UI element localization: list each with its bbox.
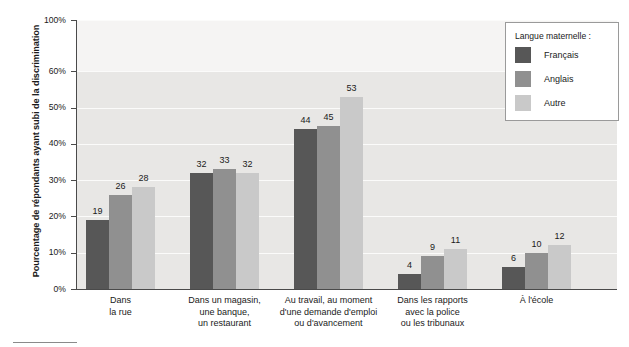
y-axis-tick-label: 60% — [49, 67, 66, 76]
y-axis-tick-label: 10% — [49, 248, 66, 257]
bar-value-label: 19 — [83, 207, 113, 216]
category-label-line: la rue — [61, 307, 181, 319]
category-label-line: une banque, — [165, 307, 285, 319]
legend-item-label: Anglais — [544, 74, 574, 84]
bar — [86, 220, 109, 289]
bar-value-label: 4 — [395, 261, 425, 270]
bar — [340, 97, 363, 289]
bar — [317, 126, 340, 289]
x-axis-line — [76, 289, 617, 290]
category-label-line: avec la police — [373, 307, 493, 319]
bar — [190, 173, 213, 289]
category-label-line: d'une demande d'emploi — [269, 307, 389, 319]
bar-value-label: 53 — [337, 84, 367, 93]
bar — [398, 274, 421, 289]
bar-chart: Pourcentage de répondants ayant subi de … — [0, 0, 629, 347]
x-axis-category-label: À l'école — [477, 295, 597, 307]
bar — [444, 249, 467, 289]
x-axis-category-label: Dans un magasin,une banque,un restaurant — [165, 295, 285, 330]
category-label-line: Dans un magasin, — [165, 295, 285, 307]
y-axis-tick-label: 50% — [49, 103, 66, 112]
footer-rule — [13, 342, 77, 343]
legend-item-label: Français — [544, 50, 579, 60]
y-axis-tick — [71, 253, 77, 254]
x-axis-category-label: Dansla rue — [61, 295, 181, 318]
bar — [548, 245, 571, 289]
bar-value-label: 6 — [499, 254, 529, 263]
category-label-line: Au travail, au moment — [269, 295, 389, 307]
x-axis-category-label: Au travail, au momentd'une demande d'emp… — [269, 295, 389, 330]
category-label-line: un restaurant — [165, 318, 285, 330]
bar-value-label: 45 — [314, 113, 344, 122]
y-axis-tick-label: 0% — [54, 285, 66, 294]
bar — [502, 267, 525, 289]
gridline — [77, 20, 617, 21]
bar-value-label: 11 — [441, 236, 471, 245]
bar-value-label: 12 — [545, 232, 575, 241]
legend-swatch — [515, 47, 531, 63]
category-label-line: Dans les rapports — [373, 295, 493, 307]
bar-value-label: 28 — [129, 174, 159, 183]
category-label-line: Dans — [61, 295, 181, 307]
y-axis-tick-label: 100% — [44, 16, 66, 25]
category-label-line: ou d'avancement — [269, 318, 389, 330]
y-axis-tick — [71, 180, 77, 181]
legend-swatch — [515, 71, 531, 87]
y-axis-tick — [71, 216, 77, 217]
y-axis-tick — [71, 144, 77, 145]
legend-swatch — [515, 95, 531, 111]
y-axis-tick-label: 20% — [49, 212, 66, 221]
bar — [132, 187, 155, 289]
bar — [294, 129, 317, 289]
category-label-line: ou les tribunaux — [373, 318, 493, 330]
y-axis-tick-label: 40% — [49, 139, 66, 148]
legend-title: Langue maternelle : — [515, 31, 591, 41]
y-axis-tick — [71, 108, 77, 109]
y-axis-tick — [71, 20, 77, 21]
legend-item-label: Autre — [544, 98, 566, 108]
y-axis-title: Pourcentage de répondants ayant subi de … — [31, 11, 41, 291]
y-axis-tick — [71, 71, 77, 72]
bar — [213, 169, 236, 289]
legend: Langue maternelle : FrançaisAnglaisAutre — [505, 22, 619, 121]
y-axis-tick-label: 30% — [49, 176, 66, 185]
category-label-line: À l'école — [477, 295, 597, 307]
bar-value-label: 32 — [233, 160, 263, 169]
x-axis-category-label: Dans les rapportsavec la policeou les tr… — [373, 295, 493, 330]
bar — [236, 173, 259, 289]
y-axis-line — [76, 20, 77, 289]
y-axis-tick — [71, 289, 77, 290]
